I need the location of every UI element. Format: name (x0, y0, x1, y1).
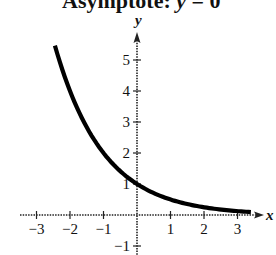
x-tick-label: −2 (62, 221, 78, 237)
axes (20, 32, 264, 255)
y-tick-label: 2 (123, 145, 131, 161)
function-graph: −3−2−1123−112345 x y (0, 0, 276, 255)
x-tick-label: 2 (200, 221, 208, 237)
x-tick-label: 1 (167, 221, 175, 237)
y-tick-label: 5 (123, 52, 131, 68)
x-tick-label: −1 (96, 221, 112, 237)
curve (55, 46, 251, 212)
ticks: −3−2−1123−112345 (29, 52, 242, 254)
x-axis-label: x (265, 207, 274, 223)
function-curve (55, 46, 251, 212)
y-tick-label: −1 (114, 238, 130, 254)
y-axis-label: y (133, 12, 142, 28)
y-tick-label: 3 (123, 114, 131, 130)
x-tick-label: 3 (234, 221, 242, 237)
y-tick-label: 4 (123, 83, 131, 99)
x-tick-label: −3 (29, 221, 45, 237)
